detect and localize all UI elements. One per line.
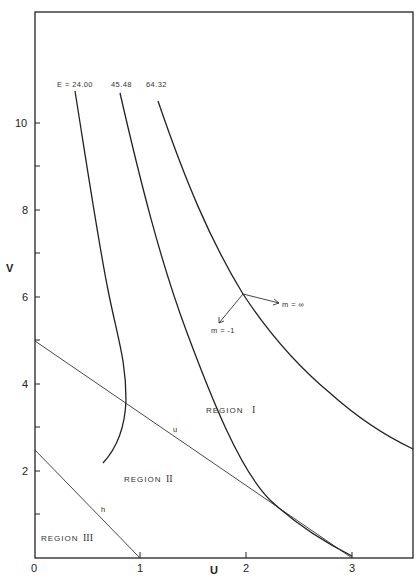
line-u-label: u (173, 425, 178, 434)
m-neg1-label: m = -1 (211, 326, 235, 335)
m-infinity-label: m = ∞ (282, 300, 304, 309)
slope-arrows (219, 294, 279, 323)
y-tick-4: 4 (22, 378, 28, 390)
curve-e-24 (75, 91, 126, 463)
y-axis-title: V (6, 262, 14, 274)
x-tick-1: 1 (137, 562, 143, 574)
x-tick-0: 0 (31, 562, 37, 574)
line-h-label: h (101, 505, 106, 514)
y-tick-2: 2 (22, 465, 28, 477)
region-3-word: REGION (41, 534, 79, 543)
y-axis-ticks (35, 123, 40, 514)
region-1-numeral: I (252, 404, 255, 415)
y-tick-6: 6 (22, 291, 28, 303)
y-tick-10: 10 (15, 117, 27, 129)
region-3-numeral: III (83, 532, 93, 543)
chart-figure: 2 4 6 8 10 V 0 1 2 3 U u h E = 24.00 45.… (0, 0, 418, 576)
curve-e-45-label: 45.48 (111, 80, 132, 89)
y-tick-8: 8 (22, 204, 28, 216)
x-tick-2: 2 (243, 562, 249, 574)
curve-e-24-label: E = 24.00 (57, 80, 93, 89)
x-axis-ticks (140, 552, 352, 558)
curve-e-45 (120, 93, 352, 556)
x-axis-title: U (210, 564, 218, 576)
region-2-word: REGION (124, 475, 162, 484)
curve-e-64-label: 64.32 (146, 80, 167, 89)
region-2-numeral: II (166, 473, 173, 484)
plot-frame (35, 12, 413, 558)
x-tick-3: 3 (349, 562, 355, 574)
line-u (35, 341, 352, 558)
region-1-word: REGION (206, 406, 244, 415)
curve-e-64 (158, 101, 413, 449)
